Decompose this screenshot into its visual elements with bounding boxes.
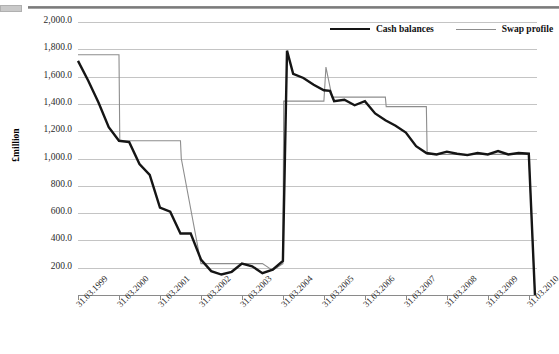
y-tick-label: 2,000.0 bbox=[0, 15, 72, 25]
y-tick-label: 1,200.0 bbox=[0, 124, 72, 134]
series-line-cash-balances bbox=[78, 51, 535, 295]
y-tick-label: 1,400.0 bbox=[0, 97, 72, 107]
y-tick-label: 200.0 bbox=[0, 261, 72, 271]
y-tick-label: 1,800.0 bbox=[0, 42, 72, 52]
y-tick-label: 1,600.0 bbox=[0, 70, 72, 80]
y-tick-label: 400.0 bbox=[0, 233, 72, 243]
plot-area bbox=[78, 22, 537, 295]
chart-figure: £million Cash balances Swap profile 2,00… bbox=[0, 0, 559, 354]
x-axis-line bbox=[78, 295, 537, 296]
y-tick-label: 1,000.0 bbox=[0, 152, 72, 162]
series-line-swap-profile bbox=[78, 55, 535, 295]
series-lines bbox=[78, 22, 537, 295]
y-axis-title: £million bbox=[11, 105, 21, 185]
y-tick-label: 800.0 bbox=[0, 179, 72, 189]
y-tick-label: 600.0 bbox=[0, 206, 72, 216]
